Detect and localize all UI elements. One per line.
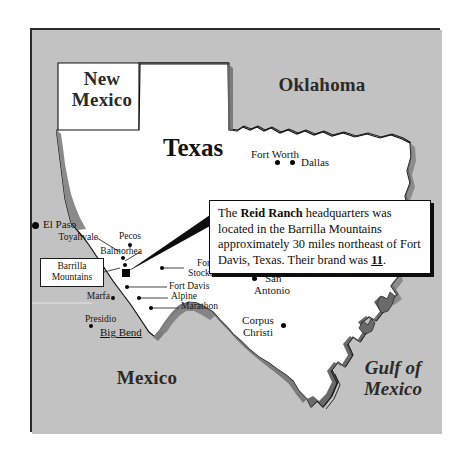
region-label-mexico: Mexico <box>92 368 202 389</box>
city-dot-fort-worth <box>275 160 280 165</box>
city-label-pecos: Pecos <box>112 232 148 242</box>
texas-map: New Mexico Oklahoma Texas Mexico Gulf of… <box>0 0 465 466</box>
reid-ranch-marker[interactable] <box>122 269 130 277</box>
city-label-marathon: Marathon <box>181 302 218 312</box>
city-label-el-paso: El Paso <box>43 219 76 231</box>
city-label-dallas: Dallas <box>301 157 329 169</box>
region-label-texas: Texas <box>163 134 223 161</box>
barrilla-mountains-label-box[interactable]: Barrilla Mountains <box>40 258 104 287</box>
reid-ranch-callout[interactable]: The Reid Ranch headquarters was located … <box>209 200 431 274</box>
city-label-toyahvale: Toyahvale <box>50 233 98 243</box>
city-dot-fort-davis <box>125 285 129 289</box>
city-label-big-bend: Big Bend <box>100 327 142 339</box>
city-dot-corpus-christi <box>281 323 286 328</box>
city-label-fort-worth: Fort Worth <box>244 149 306 161</box>
region-label-oklahoma: Oklahoma <box>264 75 380 96</box>
callout-text-3: . <box>383 253 386 267</box>
city-dot-el-paso <box>32 222 39 229</box>
barrilla-line-1: Barrilla <box>44 261 100 272</box>
city-label-presidio: Presidio <box>85 315 116 325</box>
city-dot-marfa <box>111 296 115 300</box>
map-frame: New Mexico Oklahoma Texas Mexico Gulf of… <box>30 28 440 432</box>
city-dot-dallas <box>290 160 295 165</box>
city-label-balmorhea: Balmorhea <box>94 247 142 257</box>
city-label-marfa: Marfa <box>76 292 110 302</box>
city-label-san-antonio: San Antonio <box>254 273 312 296</box>
callout-ranch-name: Reid Ranch <box>240 206 302 220</box>
callout-brand: 11 <box>371 253 383 267</box>
city-dot-marathon <box>149 306 153 310</box>
city-dot-fort-stockton <box>160 266 164 270</box>
callout-text-1: The <box>218 206 240 220</box>
city-dot-alpine <box>137 296 141 300</box>
city-dot-balmorhea <box>123 263 127 267</box>
city-label-corpus-christi: Corpus Christi <box>236 315 280 338</box>
panhandle-shadow <box>228 64 233 131</box>
barrilla-line-2: Mountains <box>44 272 100 283</box>
region-label-gulf-of-mexico: Gulf of Mexico <box>349 358 437 400</box>
region-label-new-mexico: New Mexico <box>54 68 150 111</box>
